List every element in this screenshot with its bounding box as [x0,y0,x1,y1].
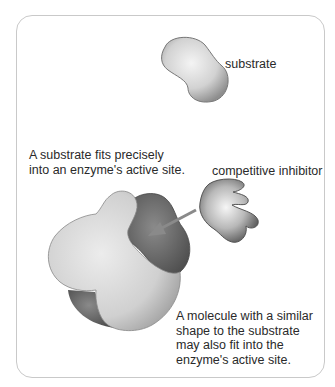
substrate-fits-caption: A substrate fits precisely into an enzym… [29,148,185,177]
caption-line: may also fit into the [176,338,326,353]
caption-line: shape to the substrate [176,324,326,339]
competitive-inhibitor-molecule [200,179,259,242]
caption-line: into an enzyme's active site. [29,163,185,178]
caption-line: A substrate fits precisely [29,148,185,163]
caption-line: enzyme's active site. [176,353,326,368]
similar-molecule-caption: A molecule with a similar shape to the s… [176,309,326,367]
caption-line: A molecule with a similar [176,309,326,324]
substrate-label: substrate [225,57,276,72]
substrate-molecule [162,37,229,102]
competitive-inhibitor-label: competitive inhibitor [212,164,322,179]
